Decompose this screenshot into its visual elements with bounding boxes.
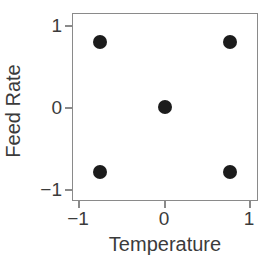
x-tick-mark-0 [164, 201, 166, 208]
y-tick-mark-0 [65, 107, 72, 109]
data-point [223, 35, 237, 49]
y-tick-label-minus-1: −1 [40, 180, 62, 199]
data-point [93, 165, 107, 179]
y-tick-mark-1 [65, 25, 72, 27]
y-axis-title: Feed Rate [0, 17, 26, 205]
data-point [93, 35, 107, 49]
x-tick-label-0: 0 [159, 209, 170, 228]
x-tick-label-1: 1 [244, 209, 255, 228]
x-axis-title: Temperature [72, 232, 258, 256]
x-tick-mark-minus-1 [78, 201, 80, 208]
y-tick-mark-minus-1 [65, 189, 72, 191]
y-tick-label-1: 1 [51, 16, 62, 35]
plot-area [72, 13, 258, 201]
y-tick-label-0: 0 [51, 98, 62, 117]
scatter-plot-figure: Feed Rate 1 0 −1 −1 0 1 Temperature [0, 0, 272, 264]
data-point [223, 165, 237, 179]
x-tick-mark-1 [249, 201, 251, 208]
x-tick-label-minus-1: −1 [67, 209, 89, 228]
data-point [158, 100, 172, 114]
